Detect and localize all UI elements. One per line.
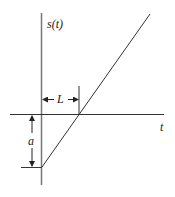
- response-line: [42, 14, 150, 167]
- offset-label: a: [28, 134, 34, 148]
- y-axis-label: s(t): [47, 17, 63, 31]
- delay-label: L: [56, 92, 64, 106]
- step-response-diagram: s(t) t L a: [0, 0, 175, 197]
- x-axis-label: t: [160, 120, 164, 134]
